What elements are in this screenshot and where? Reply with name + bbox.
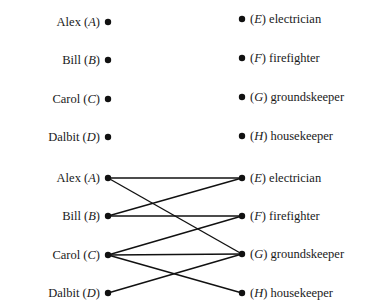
person-label-C: Carol (C) [52,248,100,262]
node-dot-F [239,55,245,61]
person-label-D: Dalbit (D) [48,130,100,144]
edge-C-F [108,216,242,255]
job-label-E: (E) electrician [250,171,321,185]
node-dot-B [105,57,111,63]
job-label-F: (F) firefighter [250,51,320,65]
node-dot-E [239,16,245,22]
node-dot-H [239,133,245,139]
node-dot-D [105,134,111,140]
node-dot-C [105,96,111,102]
node-dot-E [239,175,245,181]
unconnected-bipartite [105,16,245,140]
node-dot-C [105,252,111,258]
person-label-A: Alex (A) [57,15,100,29]
node-dot-G [239,251,245,257]
person-label-C: Carol (C) [52,92,100,106]
job-label-G: (G) groundskeeper [250,247,344,261]
job-label-G: (G) groundskeeper [250,90,344,104]
job-label-E: (E) electrician [250,12,321,26]
person-label-B: Bill (B) [62,53,100,67]
node-dot-A [105,19,111,25]
job-label-H: (H) housekeeper [250,129,333,143]
person-label-A: Alex (A) [57,171,100,185]
node-dot-B [105,213,111,219]
node-dot-A [105,175,111,181]
node-dot-D [105,290,111,296]
job-label-H: (H) housekeeper [250,286,333,300]
node-dot-H [239,290,245,296]
job-label-F: (F) firefighter [250,209,320,223]
node-dot-G [239,94,245,100]
edge-B-E [108,178,242,216]
connected-bipartite [105,175,245,296]
person-label-B: Bill (B) [62,209,100,223]
person-label-D: Dalbit (D) [48,286,100,300]
edge-C-G [108,254,242,255]
node-dot-F [239,213,245,219]
